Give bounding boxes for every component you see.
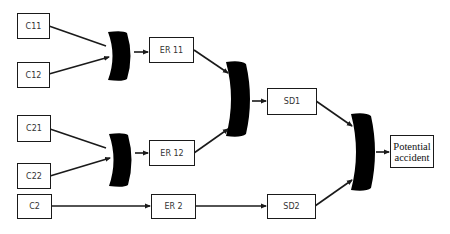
node-c22: C22	[17, 163, 51, 189]
node-label: ER 11	[160, 46, 183, 55]
node-label: C22	[26, 172, 42, 181]
node-er11: ER 11	[149, 37, 194, 63]
node-label: C2	[29, 202, 40, 211]
edge-er12-gate3	[194, 129, 228, 153]
node-c11: C11	[17, 13, 50, 39]
edge-sd2-gate4	[315, 180, 352, 206]
top-event-line2: accident	[395, 152, 430, 163]
edge-c21-gate2	[50, 129, 106, 148]
node-sd1: SD1	[267, 88, 317, 115]
fault-tree-diagram: C11 C12 C21 C22 C2 ER 11 ER 12 ER 2 SD1 …	[0, 0, 450, 234]
and-gate-1-icon	[108, 31, 131, 81]
connector-layer	[0, 0, 450, 234]
node-label: SD2	[283, 202, 299, 211]
edge-c22-gate2	[50, 158, 110, 176]
node-label: SD1	[284, 97, 300, 106]
node-er2: ER 2	[151, 194, 196, 219]
node-c12: C12	[17, 62, 50, 88]
edge-sd1-gate4	[316, 101, 352, 126]
node-label: C12	[26, 71, 42, 80]
node-c2: C2	[17, 194, 52, 219]
edge-c11-gate1	[49, 26, 106, 46]
node-sd2: SD2	[267, 194, 316, 219]
node-label: ER 2	[164, 202, 182, 211]
node-er12: ER 12	[149, 140, 195, 166]
edge-er11-gate3	[194, 50, 228, 73]
top-event-line1: Potential	[393, 141, 430, 152]
and-gate-3-icon	[226, 61, 250, 136]
node-label: C11	[26, 22, 42, 31]
node-label: C21	[26, 124, 42, 133]
and-gate-4-icon	[351, 113, 375, 190]
edge-c12-gate1	[49, 57, 109, 74]
node-potential-accident: Potential accident	[390, 135, 434, 168]
and-gate-2-icon	[109, 133, 132, 187]
node-label: ER 12	[160, 149, 183, 158]
node-c21: C21	[17, 115, 51, 142]
